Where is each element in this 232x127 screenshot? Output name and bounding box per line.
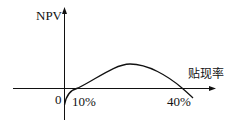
- x-tick-40: 40%: [167, 95, 191, 108]
- y-axis-arrow-icon: [62, 7, 67, 14]
- origin-label: 0: [55, 93, 62, 106]
- x-axis-arrow-icon: [209, 86, 216, 91]
- x-tick-10: 10%: [72, 95, 96, 108]
- y-axis-label: NPV: [36, 9, 62, 22]
- npv-chart: [0, 0, 232, 127]
- x-axis-label: 贴现率: [188, 68, 224, 81]
